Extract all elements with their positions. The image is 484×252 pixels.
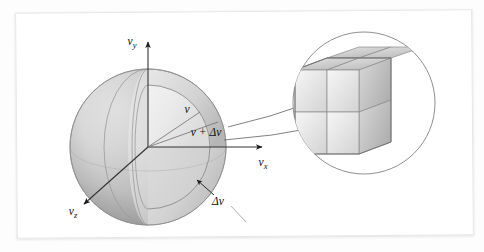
callout-lines (224, 106, 301, 140)
axis-z-label: vz (69, 205, 78, 220)
figure-root: vy vx vz v v + Δv Δv (0, 0, 484, 252)
label-speed: v (184, 103, 190, 115)
callout-line-lower (224, 130, 301, 140)
cube-front-tile-bottom-right (327, 112, 359, 154)
cube-front-tile-bottom-left (295, 112, 327, 154)
callout-line-upper (228, 106, 300, 127)
velocity-space-diagram: vy vx vz v v + Δv Δv (0, 0, 484, 252)
label-speed-plus-delta: v + Δv (191, 126, 222, 138)
delta-v-leader-secondary (231, 206, 246, 222)
label-delta-v: Δv (211, 195, 225, 207)
axis-y-label: vy (128, 35, 137, 50)
cube-front-tile-top-right (327, 70, 359, 112)
magnified-volume-element (293, 32, 435, 174)
cube-front-tile-top-left (295, 70, 327, 112)
axis-x-label: vx (259, 156, 268, 171)
